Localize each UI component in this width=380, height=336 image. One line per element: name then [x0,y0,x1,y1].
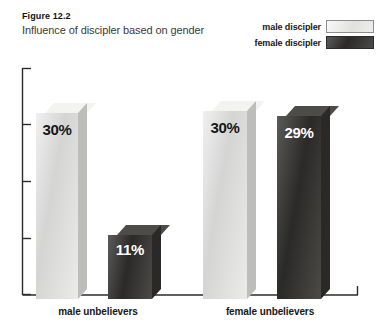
figure-number: Figure 12.2 [22,10,232,22]
bar-male-unbelievers-female-discipler: 11% [108,225,161,299]
y-axis-ticks [23,69,32,295]
bar-value-label: 11% [108,241,152,258]
bar-male-unbelievers-male-discipler: 30% [36,103,87,299]
chart-plot-area: 30% 11% 30% 29% male unbelievers female … [0,0,380,336]
bar-top-face [45,103,96,113]
legend-item-female-discipler: female discipler [255,36,374,49]
legend-label: male discipler [262,22,321,32]
legend-swatch-icon [326,36,374,49]
bar-value-label: 29% [277,124,321,141]
bar-front-face [36,113,78,299]
x-axis-category-label-male-unbelievers: male unbelievers [38,306,158,317]
bar-side-face [247,101,256,299]
bar-female-unbelievers-female-discipler: 29% [277,106,330,299]
bar-front-face [277,116,321,299]
bar-side-face [321,106,330,299]
chart-legend: male discipler female discipler [255,20,374,49]
bar-front-face [203,111,247,299]
bar-top-face [286,106,339,116]
bar-female-unbelievers-male-discipler: 30% [203,101,256,299]
bar-value-label: 30% [203,119,247,136]
bar-side-face [78,103,87,299]
bar-side-face [152,225,161,299]
bar-top-face [117,225,170,235]
bar-value-label: 30% [36,121,78,138]
figure-title: Influence of discipler based on gender [22,23,232,37]
x-axis-category-label-female-unbelievers: female unbelievers [205,306,335,317]
figure-header: Figure 12.2 Influence of discipler based… [22,10,232,37]
legend-item-male-discipler: male discipler [255,20,374,33]
legend-swatch-icon [326,20,374,33]
legend-label: female discipler [255,38,321,48]
bar-top-face [212,101,265,111]
